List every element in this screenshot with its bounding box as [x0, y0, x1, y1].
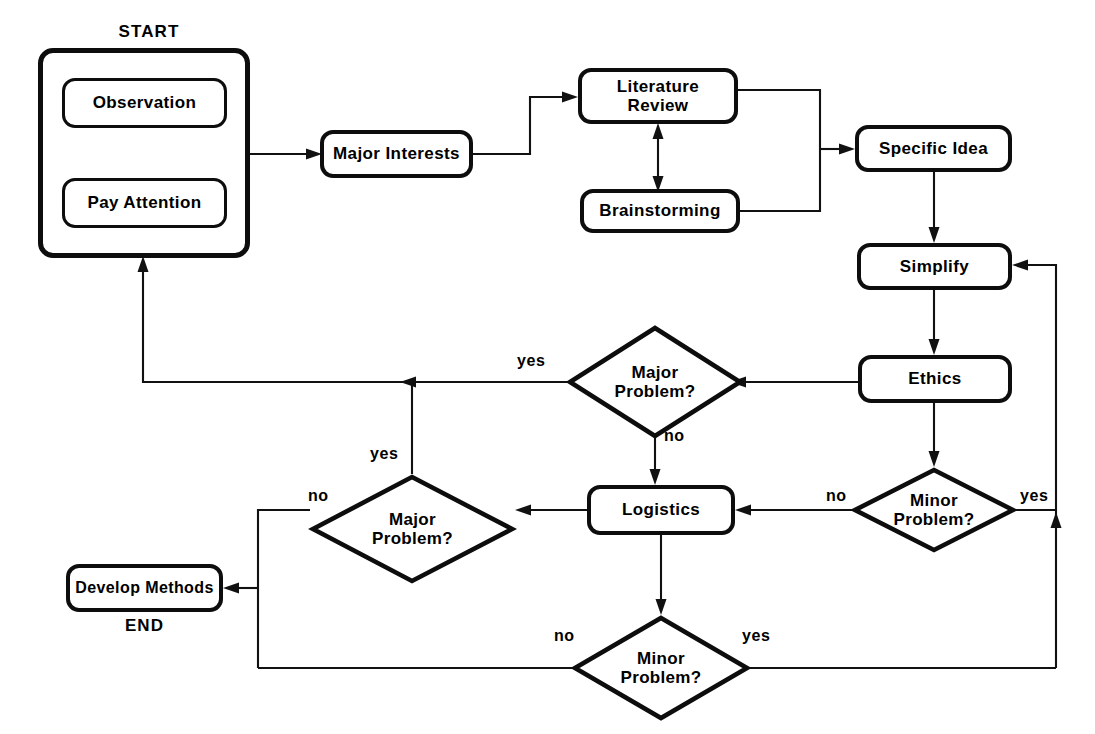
node-logistics[interactable]: Logistics — [587, 485, 735, 535]
end-caption: END — [66, 616, 223, 636]
arrowhead-simplify — [929, 227, 940, 243]
start-caption: START — [64, 22, 234, 42]
arrowhead-literature-review — [562, 92, 578, 103]
diamond-shape — [855, 470, 1013, 550]
arrowhead-simplify-right — [1012, 260, 1028, 271]
arrowhead-minorproblem2 — [656, 599, 667, 615]
node-brainstorming[interactable]: Brainstorming — [580, 189, 740, 233]
node-specific-idea[interactable]: Specific Idea — [855, 125, 1012, 172]
edge-label-major-problem-1-yes: yes — [517, 352, 546, 370]
edge-literature-to-junction — [738, 90, 820, 149]
arrowhead-majorproblem2 — [515, 505, 531, 516]
decision-major-problem-1[interactable]: Major Problem? — [567, 325, 743, 439]
arrowhead-back-to-start — [138, 256, 149, 272]
decision-minor-problem-1[interactable]: Minor Problem? — [852, 467, 1016, 553]
node-develop-methods[interactable]: Develop Methods — [66, 564, 223, 612]
literature-review-line-2: Review — [628, 96, 689, 115]
arrowhead-ethics — [929, 339, 940, 355]
edge-majorproblem2-no — [258, 510, 310, 668]
arrowhead-logistics-right — [735, 505, 751, 516]
diamond-shape — [575, 618, 747, 718]
node-pay-attention[interactable]: Pay Attention — [62, 178, 227, 228]
node-observation[interactable]: Observation — [62, 78, 227, 128]
edge-majorinterests-to-literature — [473, 97, 568, 154]
literature-review-line-1: Literature — [617, 77, 699, 96]
node-major-interests[interactable]: Major Interests — [320, 130, 473, 178]
arrowhead-specific-idea — [839, 144, 855, 155]
edge-majorproblem1-yes-to-start — [143, 268, 567, 382]
node-simplify[interactable]: Simplify — [857, 243, 1012, 290]
edge-label-major-problem-2-no: no — [308, 487, 329, 505]
flowchart-canvas: START Observation Pay Attention Major In… — [0, 0, 1095, 734]
edge-label-minor-problem-1-no: no — [826, 487, 847, 505]
edge-right-return-to-simplify — [1024, 265, 1056, 668]
edge-brainstorming-to-junction — [740, 149, 820, 211]
edge-label-minor-problem-1-yes: yes — [1020, 487, 1049, 505]
edge-label-major-problem-2-yes: yes — [370, 445, 399, 463]
edge-label-minor-problem-2-yes: yes — [742, 627, 771, 645]
arrowhead-up-literature — [653, 123, 664, 139]
edge-label-minor-problem-2-no: no — [554, 627, 575, 645]
diamond-shape — [570, 328, 740, 436]
diamond-shape — [313, 477, 512, 581]
arrowhead-develop-methods — [223, 583, 239, 594]
node-ethics[interactable]: Ethics — [858, 355, 1012, 403]
arrowhead-riser-merge — [1051, 512, 1062, 528]
arrowhead-feedback-junction — [400, 377, 416, 388]
edge-label-major-problem-1-no: no — [664, 427, 685, 445]
decision-major-problem-2[interactable]: Major Problem? — [310, 474, 515, 584]
arrowhead-minorproblem1 — [929, 451, 940, 467]
decision-minor-problem-2[interactable]: Minor Problem? — [572, 615, 750, 721]
node-literature-review[interactable]: Literature Review — [578, 68, 738, 124]
arrowhead-logistics-top — [650, 469, 661, 485]
